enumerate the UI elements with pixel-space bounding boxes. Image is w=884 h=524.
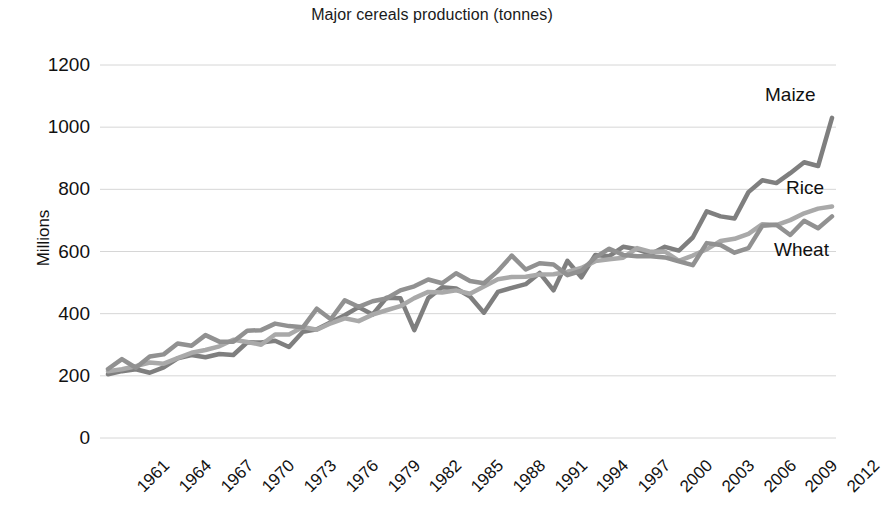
- x-tick-label: 1976: [342, 456, 383, 497]
- x-tick-label: 2003: [718, 456, 759, 497]
- x-tick-label: 2012: [843, 456, 884, 497]
- x-tick-label: 1973: [300, 456, 341, 497]
- x-tick-label: 1991: [551, 456, 592, 497]
- x-tick-label: 1967: [217, 456, 258, 497]
- x-tick-label: 1988: [509, 456, 550, 497]
- x-tick-label: 1970: [258, 456, 299, 497]
- x-tick-label: 1997: [634, 456, 675, 497]
- x-tick-label: 2000: [676, 456, 717, 497]
- x-tick-label: 1982: [425, 456, 466, 497]
- x-tick-label: 2009: [801, 456, 842, 497]
- series-label-maize: Maize: [765, 84, 816, 106]
- x-tick-label: 1994: [593, 456, 634, 497]
- x-tick-label: 1979: [384, 456, 425, 497]
- x-tick-label: 1985: [467, 456, 508, 497]
- x-tick-label: 2006: [760, 456, 801, 497]
- series-label-rice: Rice: [786, 177, 824, 199]
- x-tick-label: 1961: [133, 456, 174, 497]
- series-label-wheat: Wheat: [774, 239, 829, 261]
- x-tick-label: 1964: [175, 456, 216, 497]
